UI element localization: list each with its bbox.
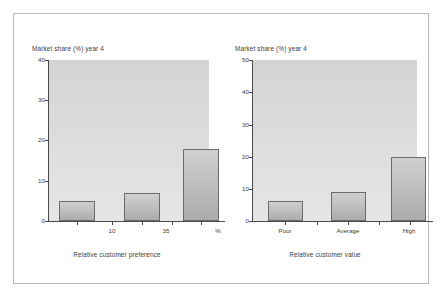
left-ytick-mark-30	[45, 100, 48, 101]
right-ytick-50: 50	[233, 57, 249, 63]
left-xtick-label-percent: %	[215, 227, 221, 234]
right-ytick-mark-30	[249, 125, 252, 126]
right-xtick-mark-5	[410, 222, 411, 225]
chart-panel-left: Market share (%) year 4 40 30 20 10 0 10…	[13, 13, 221, 284]
left-xtick-mark-1	[77, 222, 78, 225]
left-ytick-mark-0	[45, 221, 48, 222]
right-xtick-label-average: Average	[337, 227, 360, 234]
left-xtick-mark-5	[201, 222, 202, 225]
right-xtick-label-high: High	[403, 227, 416, 234]
left-x-axis-line	[48, 221, 225, 222]
right-ytick-mark-10	[249, 189, 252, 190]
left-ytick-mark-40	[45, 60, 48, 61]
right-ytick-mark-50	[249, 60, 252, 61]
right-xtick-label-poor: Poor	[278, 227, 291, 234]
left-ytick-0: 0	[29, 218, 45, 224]
right-ytick-20: 20	[233, 154, 249, 160]
right-ytick-0: 0	[233, 218, 249, 224]
left-ytick-mark-10	[45, 181, 48, 182]
right-ytick-30: 30	[233, 122, 249, 128]
left-bar-3	[183, 149, 219, 221]
left-ytick-mark-20	[45, 140, 48, 141]
right-xtick-mark-2	[317, 222, 318, 225]
left-xtick-label-10: 10	[109, 227, 116, 234]
right-xtick-mark-1	[285, 222, 286, 225]
right-ytick-40: 40	[233, 89, 249, 95]
figure-canvas: Market share (%) year 4 40 30 20 10 0 10…	[0, 0, 443, 297]
right-ytick-10: 10	[233, 186, 249, 192]
right-axis-title: Relative customer value	[221, 251, 429, 258]
left-ytick-20: 20	[29, 137, 45, 143]
right-xtick-mark-3	[348, 222, 349, 225]
left-bar-1	[59, 201, 95, 221]
right-bar-high	[391, 157, 426, 221]
left-ytick-30: 30	[29, 97, 45, 103]
left-bar-2	[124, 193, 160, 221]
left-ytick-10: 10	[29, 178, 45, 184]
left-xtick-mark-3	[142, 222, 143, 225]
left-xtick-mark-2	[112, 222, 113, 225]
right-bar-average	[331, 192, 366, 221]
right-y-axis-line	[252, 60, 253, 222]
left-xtick-label-35: 35	[163, 227, 170, 234]
left-axis-title: Relative customer preference	[13, 251, 221, 258]
chart-panel-right: Market share (%) year 4 50 40 30 20 10 0…	[221, 13, 429, 284]
right-bar-poor	[268, 201, 303, 221]
right-chart-title: Market share (%) year 4	[235, 45, 307, 52]
right-x-axis-line	[252, 221, 433, 222]
left-chart-title: Market share (%) year 4	[32, 45, 104, 52]
right-ytick-mark-20	[249, 157, 252, 158]
left-xtick-mark-4	[172, 222, 173, 225]
right-ytick-mark-40	[249, 92, 252, 93]
left-y-axis-line	[48, 60, 49, 222]
right-xtick-mark-4	[379, 222, 380, 225]
left-ytick-40: 40	[29, 57, 45, 63]
right-ytick-mark-0	[249, 221, 252, 222]
